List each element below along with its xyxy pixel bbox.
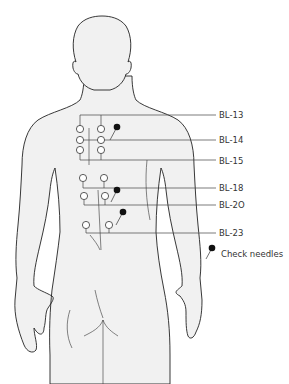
label-bl-20: BL-2O: [219, 200, 245, 210]
legend: Check needles: [206, 245, 284, 259]
label-bl-23: BL-23: [219, 228, 243, 238]
needle-legend-icon: [209, 245, 216, 252]
label-bl-13: BL-13: [219, 110, 243, 120]
label-bl-18: BL-18: [219, 183, 243, 193]
label-bl-15: BL-15: [219, 156, 243, 166]
label-bl-14: BL-14: [219, 135, 243, 145]
point-labels: BL-13 BL-14 BL-15 BL-18 BL-2O BL-23: [219, 110, 245, 238]
legend-label: Check needles: [221, 249, 284, 259]
acupuncture-back-diagram: BL-13 BL-14 BL-15 BL-18 BL-2O BL-23 Chec…: [0, 0, 289, 384]
